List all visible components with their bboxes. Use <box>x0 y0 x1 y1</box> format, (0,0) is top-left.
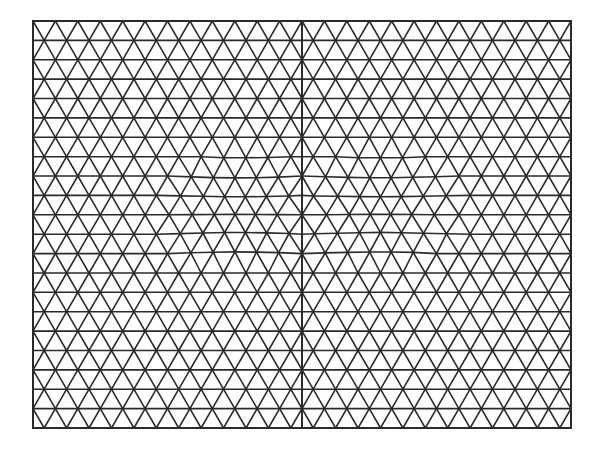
triangular-mesh-diagram <box>0 0 602 451</box>
